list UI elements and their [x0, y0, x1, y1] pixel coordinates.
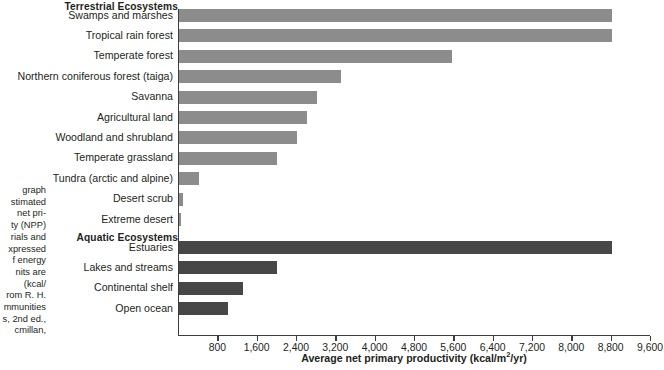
bar — [179, 261, 277, 274]
bar — [179, 9, 612, 22]
value-axis-tick — [571, 336, 572, 341]
value-axis-tick — [257, 336, 258, 341]
value-axis-tick — [414, 336, 415, 341]
category-label: Woodland and shrubland — [55, 131, 173, 144]
figure-caption: graph stimated net pri- ty (NPP) rials a… — [0, 185, 46, 337]
category-label: Estuaries — [129, 241, 173, 254]
bar — [179, 111, 307, 124]
value-axis-tick — [493, 336, 494, 341]
plot-area: 8001,6002,4003,2004,0004,8005,6006,4007,… — [178, 9, 650, 336]
category-label: Lakes and streams — [83, 261, 173, 274]
bar — [179, 302, 228, 315]
value-axis-tick — [335, 336, 336, 341]
bar — [179, 193, 183, 206]
category-label: Continental shelf — [94, 281, 173, 294]
category-label: Temperate grassland — [74, 151, 173, 164]
category-label: Temperate forest — [94, 49, 174, 62]
bar — [179, 152, 277, 165]
bar — [179, 29, 612, 42]
value-axis-tick — [296, 336, 297, 341]
category-label: Swamps and marshes — [68, 9, 173, 22]
value-axis-tick — [650, 336, 651, 341]
category-label: Savanna — [131, 90, 173, 103]
value-axis-title-tail: /yr) — [510, 352, 527, 364]
value-axis-tick — [453, 336, 454, 341]
bar — [179, 131, 297, 144]
bar — [179, 172, 199, 185]
value-axis-title: Average net primary productivity (kcal/m… — [178, 350, 650, 364]
value-axis-title-main: Average net primary productivity (kcal/m — [301, 352, 506, 364]
category-label: Extreme desert — [101, 213, 173, 226]
bar — [179, 50, 452, 63]
bar — [179, 70, 341, 83]
figure-bar-chart-npp: graph stimated net pri- ty (NPP) rials a… — [0, 0, 664, 370]
value-axis-tick — [217, 336, 218, 341]
category-label: Agricultural land — [97, 111, 173, 124]
category-label: Tropical rain forest — [86, 29, 173, 42]
value-axis-tick — [375, 336, 376, 341]
bar — [179, 91, 317, 104]
category-label: Northern coniferous forest (taiga) — [18, 70, 173, 83]
category-label: Tundra (arctic and alpine) — [53, 172, 173, 185]
bar — [179, 241, 612, 254]
bar — [179, 213, 181, 226]
category-label: Open ocean — [115, 302, 173, 315]
bar — [179, 282, 243, 295]
value-axis-tick — [532, 336, 533, 341]
value-axis-tick — [611, 336, 612, 341]
category-label: Desert scrub — [113, 192, 173, 205]
